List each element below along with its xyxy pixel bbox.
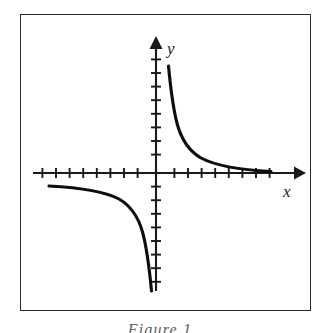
arrow-up-icon	[150, 36, 163, 49]
hyperbola-graph: y x	[21, 15, 309, 309]
curve-branch-upper-right	[169, 66, 272, 172]
y-axis-label: y	[165, 39, 175, 58]
arrow-right-icon	[294, 167, 306, 180]
curve-branch-lower-left	[49, 186, 152, 291]
axis-group	[33, 38, 294, 291]
x-axis-label: x	[282, 182, 291, 201]
plot-frame-border: y x	[20, 14, 311, 311]
figure-caption: Figure 1	[0, 321, 320, 333]
figure-container: y x Figure 1	[0, 0, 320, 333]
